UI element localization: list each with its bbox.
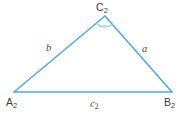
side-label-c2: c2 xyxy=(90,99,98,110)
vertex-label-a2-subscript: 2 xyxy=(13,101,17,110)
side-label-a: a xyxy=(142,44,147,55)
vertex-label-c2-text: C xyxy=(96,1,104,13)
side-label-a-text: a xyxy=(142,43,147,54)
vertex-label-b2: B2 xyxy=(164,97,175,109)
vertex-label-c2-subscript: 2 xyxy=(104,6,108,15)
side-label-b-text: b xyxy=(46,42,51,53)
triangle-side-a-line xyxy=(105,16,172,92)
triangle-figure: C2 A2 B2 b a c2 xyxy=(0,0,186,114)
triangle-side-b-line xyxy=(14,16,105,92)
side-label-c2-subscript: 2 xyxy=(95,102,99,111)
side-label-b: b xyxy=(46,43,51,54)
vertex-label-c2: C2 xyxy=(96,2,108,14)
vertex-label-a2: A2 xyxy=(6,97,17,109)
vertex-label-b2-subscript: 2 xyxy=(171,101,175,110)
triangle-drawing xyxy=(0,0,186,114)
